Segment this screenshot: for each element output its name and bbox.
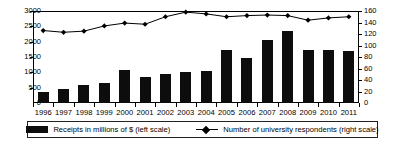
x-tick-mark [33, 103, 34, 107]
x-tick-mark [53, 103, 54, 107]
x-tick-mark [278, 103, 279, 107]
marker-2006 [244, 13, 249, 18]
x-label-1996: 1996 [33, 107, 53, 118]
x-tick-mark [318, 103, 319, 107]
line-diamond-icon [196, 126, 218, 133]
legend-label-receipts: Receipts in millions of $ (left scale) [53, 125, 170, 134]
x-label-2000: 2000 [115, 107, 135, 118]
x-tick-mark [196, 103, 197, 107]
x-label-1997: 1997 [53, 107, 73, 118]
marker-1998 [81, 29, 86, 34]
marker-2005 [224, 14, 229, 19]
x-label-2004: 2004 [196, 107, 216, 118]
right-tick-label: 120 [364, 30, 394, 38]
x-label-2006: 2006 [237, 107, 257, 118]
marker-2000 [122, 20, 127, 25]
right-tick-label: 0 [364, 99, 394, 107]
x-axis-labels: 1996199719981999200020012002200320042005… [33, 107, 359, 118]
right-tick-mark [359, 57, 362, 58]
x-tick-mark [176, 103, 177, 107]
x-label-1999: 1999 [94, 107, 114, 118]
x-tick-mark [298, 103, 299, 107]
marker-2004 [204, 11, 209, 16]
right-tick-mark [359, 46, 362, 47]
marker-2007 [265, 12, 270, 17]
right-tick-label: 160 [364, 7, 394, 15]
plot-area [33, 11, 359, 103]
bar-swatch-icon [26, 126, 48, 133]
x-label-2002: 2002 [155, 107, 175, 118]
marker-2008 [285, 13, 290, 18]
x-label-2008: 2008 [278, 107, 298, 118]
right-tick-label: 140 [364, 19, 394, 27]
marker-1999 [102, 23, 107, 28]
marker-1997 [61, 30, 66, 35]
right-tick-label: 80 [364, 53, 394, 61]
x-label-2001: 2001 [135, 107, 155, 118]
x-tick-mark [359, 103, 360, 107]
right-tick-mark [359, 92, 362, 93]
legend-item-respondents: Number of university respondents (right … [196, 125, 378, 134]
x-label-2007: 2007 [257, 107, 277, 118]
marker-2011 [346, 14, 351, 19]
x-label-1998: 1998 [74, 107, 94, 118]
x-label-2005: 2005 [216, 107, 236, 118]
right-tick-label: 20 [364, 88, 394, 96]
right-tick-mark [359, 23, 362, 24]
x-tick-mark [216, 103, 217, 107]
chart-container: 050010001500200025003000 020406080100120… [0, 0, 403, 143]
marker-2002 [163, 14, 168, 19]
x-label-2010: 2010 [318, 107, 338, 118]
x-tick-mark [135, 103, 136, 107]
legend-item-receipts: Receipts in millions of $ (left scale) [26, 125, 170, 134]
x-tick-mark [237, 103, 238, 107]
right-tick-mark [359, 69, 362, 70]
right-tick-label: 100 [364, 42, 394, 50]
x-tick-mark [94, 103, 95, 107]
marker-2009 [305, 18, 310, 23]
x-tick-mark [339, 103, 340, 107]
legend-label-respondents: Number of university respondents (right … [223, 125, 378, 134]
x-label-2011: 2011 [339, 107, 359, 118]
right-tick-label: 40 [364, 76, 394, 84]
x-tick-mark [74, 103, 75, 107]
line-series [33, 11, 359, 103]
x-label-2009: 2009 [298, 107, 318, 118]
line-path [43, 12, 349, 32]
chart-legend: Receipts in millions of $ (left scale) N… [27, 121, 378, 138]
marker-2001 [142, 22, 147, 27]
marker-2010 [326, 15, 331, 20]
x-label-2003: 2003 [176, 107, 196, 118]
x-tick-mark [257, 103, 258, 107]
right-tick-mark [359, 34, 362, 35]
marker-1996 [41, 28, 46, 33]
right-tick-mark [359, 80, 362, 81]
right-tick-mark [359, 11, 362, 12]
marker-2003 [183, 10, 188, 15]
right-tick-label: 60 [364, 65, 394, 73]
x-tick-mark [155, 103, 156, 107]
x-tick-mark [115, 103, 116, 107]
